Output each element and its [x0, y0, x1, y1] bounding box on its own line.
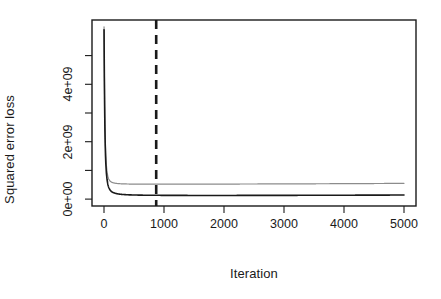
y-tick-label-2000000000: 2e+09	[60, 112, 76, 172]
y-tick-label-4000000000: 4e+09	[60, 54, 76, 114]
chart-figure: Squared error loss Iteration 01000200030…	[0, 0, 441, 299]
plot-background	[92, 20, 416, 206]
x-tick-label-5000: 5000	[364, 217, 441, 231]
y-tick-label-0: 0e+00	[60, 169, 76, 229]
plot-area	[85, 20, 416, 213]
y-axis-title: Squared error loss	[0, 0, 20, 299]
y-axis-title-text: Squared error loss	[0, 95, 20, 204]
x-axis-title: Iteration	[92, 266, 416, 281]
